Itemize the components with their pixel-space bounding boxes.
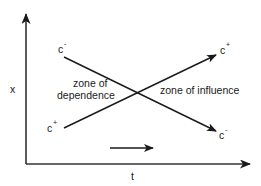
c-plus-start-label: c + xyxy=(47,119,57,134)
y-axis-label: x xyxy=(10,83,16,95)
axes: x t xyxy=(10,14,250,182)
c-plus-end-label: c + xyxy=(220,41,230,56)
svg-text:-: - xyxy=(64,40,67,47)
svg-text:c: c xyxy=(219,129,224,141)
characteristics-diagram: x t c - c - c + c + zone of dependence z… xyxy=(0,0,261,186)
zone-of-influence: zone of influence xyxy=(160,84,240,96)
zone-of-dependence-line1: zone of xyxy=(73,77,108,89)
svg-text:c: c xyxy=(47,122,52,134)
c-minus-end-label: c - xyxy=(219,126,228,141)
svg-text:+: + xyxy=(226,41,230,48)
svg-text:c: c xyxy=(220,44,225,56)
svg-text:+: + xyxy=(53,119,57,126)
c-minus-start-label: c - xyxy=(58,40,67,55)
x-axis-label: t xyxy=(131,170,134,182)
svg-text:-: - xyxy=(225,126,228,133)
zone-of-dependence-line2: dependence xyxy=(57,89,115,101)
svg-text:c: c xyxy=(58,43,63,55)
